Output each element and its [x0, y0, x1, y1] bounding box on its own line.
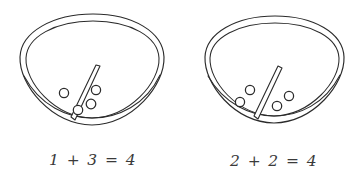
bowl-two-group: 2 + 2 = 4: [205, 16, 344, 170]
worksheet-canvas: 1 + 3 = 4 2 + 2 = 4: [0, 0, 359, 179]
counter-dot: [235, 97, 244, 106]
bowl-one-caption: 1 + 3 = 4: [49, 151, 137, 169]
bowl-two-caption: 2 + 2 = 4: [229, 152, 318, 170]
counter-dot: [91, 85, 100, 94]
counter-dot: [284, 91, 293, 100]
counter-dot: [245, 85, 254, 94]
counter-dot: [86, 99, 96, 109]
counter-dot: [272, 101, 281, 110]
number-bonds-illustration: 1 + 3 = 4 2 + 2 = 4: [0, 0, 359, 179]
bowl-one-group: 1 + 3 = 4: [20, 14, 164, 169]
counter-dot: [73, 105, 82, 114]
counter-dot: [59, 88, 68, 97]
